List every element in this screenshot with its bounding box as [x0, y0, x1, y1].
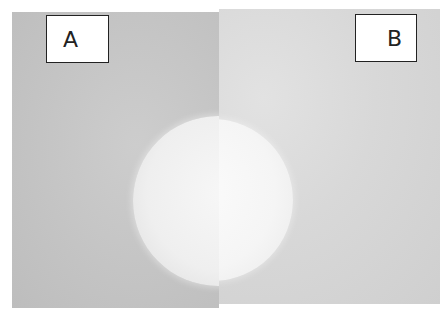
panel-b-disc [219, 119, 293, 281]
panel-a-disc [133, 116, 219, 286]
panel-b-label: B [355, 14, 417, 62]
panel-b-label-text: B [387, 26, 402, 51]
panel-a-label-text: A [63, 27, 78, 52]
panel-a-photo [12, 12, 219, 308]
panel-a-label: A [46, 15, 109, 63]
